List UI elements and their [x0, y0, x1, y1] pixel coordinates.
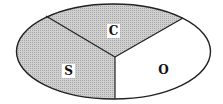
ellipse-divided-into-three-regions [0, 0, 223, 104]
ellipse-diagram: C S O [0, 0, 223, 104]
region-label-o: O [157, 63, 170, 77]
region-label-c: C [107, 24, 120, 38]
region-label-s: S [62, 64, 75, 78]
